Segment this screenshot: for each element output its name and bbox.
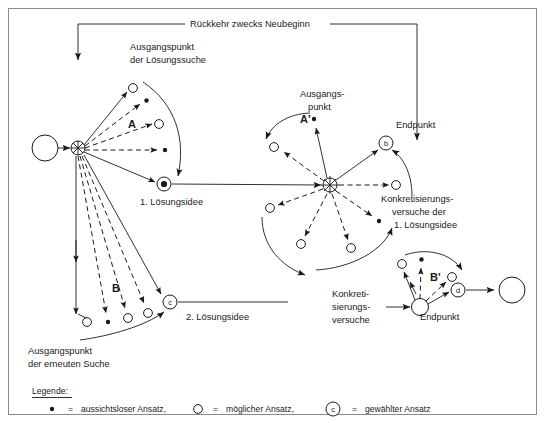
label-concretization-1-line3: 1. Lösungsidee: [394, 220, 457, 230]
fan-ap-ray-down-l: [305, 194, 327, 236]
fan-bp-ray-ur: [426, 282, 446, 301]
fan-ap-ray-ur-chosen: [336, 150, 378, 180]
label-concretization-2-line1: Konkreti-: [332, 289, 369, 299]
edge-a-to-mid-hub: [172, 184, 321, 185]
return-path-label: Rückkehr zwecks Neubeginn: [190, 19, 310, 29]
node-a: a: [157, 177, 171, 191]
fan-ap-ray-ul: [284, 152, 324, 181]
fan-b-ray-5-chosen: [84, 155, 161, 294]
fan-ap-node-open-dr: [347, 244, 356, 253]
fan-b-ray-4: [82, 156, 144, 303]
fan-bp-ray-up: [420, 268, 421, 299]
fan-a-prime: [262, 113, 400, 275]
label-idea-1: 1. Lösungsidee: [140, 197, 203, 207]
problem-solving-diagram: Rückkehr zwecks Neubeginn Ausgangspunkt …: [0, 0, 546, 423]
fan-bp-node-open-ur: [448, 273, 457, 282]
fan-a: [84, 82, 181, 182]
legend-item-3-equals: =: [352, 404, 357, 414]
legend: Legende: = aussichtsloser Ansatz, = mögl…: [32, 386, 430, 416]
label-idea-2: 2. Lösungsidee: [186, 312, 249, 322]
fan-ap-node-dot-up: [312, 117, 316, 121]
fan-bp-ray-ul: [404, 272, 415, 300]
end-node-circle: [499, 277, 525, 303]
fan-a-arc: [143, 82, 181, 176]
start-node-circle: [32, 135, 58, 161]
legend-circled-letter-icon: c: [326, 402, 340, 416]
label-fan-a-prime: A': [300, 113, 311, 125]
node-c: c: [163, 295, 177, 309]
fan-a-ray-5-chosen: [84, 152, 155, 182]
fan-b-node-open-3: [144, 309, 153, 318]
legend-item-2-text: möglicher Ansatz,: [226, 404, 294, 414]
label-endpoint-b: Endpunkt: [396, 120, 436, 130]
label-concretization-1-line2: versuche der: [392, 207, 446, 217]
fan-ap-node-open-ul: [270, 143, 279, 152]
fan-ap-ray-lr: [336, 191, 372, 216]
node-c-letter: c: [168, 298, 172, 307]
fan-a-node-dot-2: [163, 148, 167, 152]
legend-title: Legende:: [32, 386, 68, 396]
label-fan-a: A: [128, 118, 136, 130]
label-restart-line2: der erneuten Suche: [28, 359, 110, 369]
label-endpoint-d: Endpunkt: [420, 312, 460, 322]
node-d-letter: d: [456, 286, 460, 295]
fan-b-node-dot-1: [106, 320, 110, 324]
fan-b-node-open-1: [83, 318, 92, 327]
fan-ap-ray-left: [278, 189, 323, 205]
label-concretization-1-line1: Konkretisierungs-: [381, 194, 453, 204]
fan-bp-node-open-ul: [398, 260, 407, 269]
fan-a-node-open-1: [129, 84, 138, 93]
diagram-canvas: Rückkehr zwecks Neubeginn Ausgangspunkt …: [0, 0, 546, 423]
label-fan-b-prime: B': [430, 271, 441, 283]
label-start-solution-search-line2: der Lösungssuche: [130, 55, 206, 65]
legend-item-3-text: gewählter Ansatz: [365, 404, 430, 414]
label-mid-start-line2: punkt: [308, 102, 331, 112]
fan-bp-node-dot-up: [419, 257, 423, 261]
label-restart-line1: Ausgangspunkt: [28, 346, 93, 356]
fan-ap-ray-down-r: [332, 194, 348, 240]
label-fan-b: B: [112, 282, 120, 294]
legend-circled-letter: c: [331, 405, 335, 414]
fan-bp-ray-ul-mid: [410, 282, 416, 294]
legend-item-2-equals: =: [213, 404, 218, 414]
legend-item-1-text: aussichtsloser Ansatz,: [81, 404, 166, 414]
node-b: b: [379, 136, 393, 150]
node-b-letter: b: [384, 139, 388, 148]
main-hub: [71, 141, 85, 155]
fan-ap-node-open-left: [266, 204, 275, 213]
label-mid-start-line1: Ausgangs-: [300, 89, 344, 99]
fan-ap-node-dot-lr: [377, 219, 381, 223]
fan-ap-node-open-dl: [297, 240, 306, 249]
node-d: d: [451, 283, 465, 297]
fan-ap-ray-up: [316, 128, 327, 178]
legend-open-circle-icon: [194, 405, 203, 414]
fan-b-node-open-2: [124, 314, 133, 323]
fan-ap-node-open-right: [392, 181, 401, 190]
fan-a-node-dot-1: [144, 98, 148, 102]
fan-bp-arc: [405, 252, 462, 270]
fan-a-node-open-2: [155, 120, 164, 129]
label-start-solution-search-line1: Ausgangspunkt: [130, 42, 195, 52]
label-concretization-2-line3: versuche: [332, 315, 370, 325]
fan-bp-ray-r-chosen: [428, 292, 449, 304]
label-concretization-2-line2: sierungs-: [332, 302, 370, 312]
fan-b: [76, 155, 164, 340]
legend-filled-dot-icon: [50, 407, 54, 411]
fan-a-ray-3: [85, 124, 152, 148]
legend-item-1-equals: =: [68, 404, 73, 414]
